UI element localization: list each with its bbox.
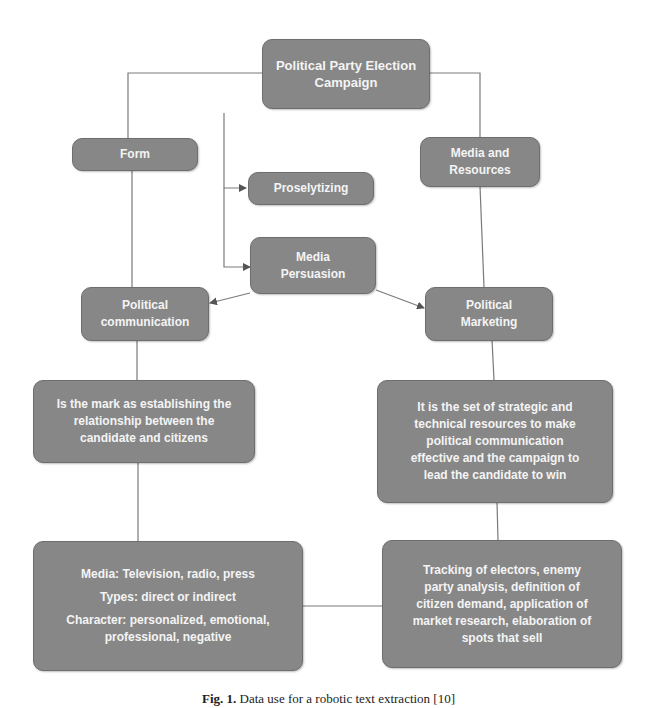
node-text-line: Proselytizing [274,180,349,197]
caption-text: Data use for a robotic text extraction [… [240,691,456,706]
node-text-line: lead the candidate to win [424,467,567,484]
connector-root-proselytizing [224,113,246,188]
node-text-line: political communication [426,433,563,450]
node-communication-definition: Is the mark as establishing the relation… [33,380,255,463]
node-text-line: Media [296,249,330,266]
node-text-line: Marketing [461,314,518,331]
node-text-line: Form [120,146,150,163]
connector-mkt-def-details [497,502,498,540]
node-text-line: Political [122,297,168,314]
node-text-line: Media and [451,145,510,162]
node-text-line: Is the mark as establishing the [57,396,232,413]
node-text-line: Political [466,297,512,314]
node-media-and-resources: Media and Resources [420,137,540,187]
node-text-line: party analysis, definition of [424,579,579,596]
caption-label: Fig. 1. [202,691,236,706]
node-text-line: Types: direct or indirect [100,589,236,606]
node-text-line: Media: Television, radio, press [81,566,255,583]
node-text-line: effective and the campaign to [411,450,580,467]
node-political-marketing: Political Marketing [425,287,553,341]
node-media-persuasion: Media Persuasion [250,237,376,294]
diagram-canvas: Political Party Election Campaign Form M… [0,0,657,708]
connector-root-form [128,73,262,138]
node-form: Form [72,138,198,171]
connector-marketing-definition [492,340,494,380]
connector-resources-marketing [480,186,484,287]
node-marketing-definition: It is the set of strategic and technical… [377,380,613,503]
node-text-line: Tracking of electors, enemy [423,562,581,579]
node-text-line: citizen demand, application of [416,596,587,613]
node-text-line: Persuasion [281,266,346,283]
node-text-line: technical resources to make [414,416,575,433]
node-communication-details: Media: Television, radio, press Types: d… [33,541,303,671]
connector-root-persuasion [224,188,250,267]
connector-persuasion-marketing [376,290,424,308]
node-political-communication: Political communication [81,287,209,341]
node-text-line: candidate and citizens [80,430,208,447]
node-text-line: Political Party Election [276,57,416,74]
node-text-line: market research, elaboration of [413,613,592,630]
node-text-line: It is the set of strategic and [417,399,572,416]
node-text-line: relationship between the [74,413,215,430]
node-text-line: Character: personalized, emotional, [66,612,269,629]
node-text-line: spots that sell [462,630,543,647]
node-text-line: communication [101,314,190,331]
node-proselytizing: Proselytizing [248,172,374,205]
node-marketing-details: Tracking of electors, enemy party analys… [382,540,622,668]
node-text-line: Resources [449,162,510,179]
node-text-line: Campaign [315,74,378,91]
node-political-party-election-campaign: Political Party Election Campaign [262,39,430,109]
connector-persuasion-communication [210,293,250,303]
figure-caption: Fig. 1. Data use for a robotic text extr… [0,691,657,707]
node-text-line: professional, negative [105,629,232,646]
